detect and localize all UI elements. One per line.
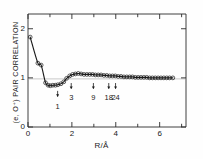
- x-tick-label: 2: [62, 129, 82, 138]
- x-tick-label: 0: [18, 129, 38, 138]
- x-tick-label: 4: [106, 129, 126, 138]
- figure-pair-correlation: 012 0246 1391824 (e, O⁺) PAIR CORRELATIO…: [0, 0, 203, 159]
- annotation-label: 24: [106, 93, 126, 102]
- data-markers: [28, 35, 174, 87]
- x-axis-title: R/Å: [0, 141, 203, 150]
- annotation-label: 1: [48, 102, 68, 111]
- y-axis-title: (e, O⁺) PAIR CORRELATION: [11, 17, 20, 129]
- x-tick-label: 6: [150, 129, 170, 138]
- annotation-label: 3: [61, 93, 81, 102]
